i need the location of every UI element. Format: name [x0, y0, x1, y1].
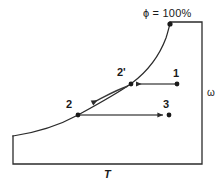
- state-point-3-label: 3: [163, 99, 169, 110]
- state-point-2prime-label: 2': [117, 67, 126, 78]
- process-arrow-2prime-to-2: [92, 86, 128, 103]
- state-point-2-marker: [76, 113, 81, 118]
- state-point-2-label: 2: [66, 99, 72, 110]
- state-point-1-label: 1: [173, 68, 179, 79]
- saturation-curve-label: ϕ = 100%: [143, 8, 191, 19]
- state-point-1-marker: [175, 82, 180, 87]
- saturation-curve: [13, 24, 170, 136]
- frame-outline: [13, 22, 202, 164]
- curve-top-endpoint-marker: [167, 21, 172, 26]
- chart-frame: [13, 22, 202, 164]
- x-axis-label: T: [104, 169, 111, 180]
- psychrometric-diagram: ϕ = 100% 1 2 2' 3 T ω: [0, 0, 223, 189]
- state-point-3-marker: [167, 113, 172, 118]
- y-axis-label: ω: [207, 88, 215, 98]
- state-point-2prime-marker: [129, 82, 134, 87]
- diagram-canvas: [0, 0, 223, 189]
